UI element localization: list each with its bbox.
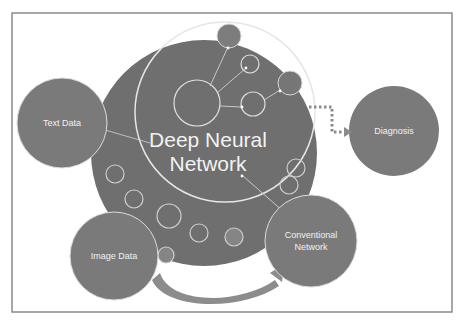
output-node-1	[217, 24, 241, 48]
output-node-2	[278, 71, 302, 95]
conventional-network-node	[265, 195, 357, 287]
text-data-label: Text Data	[43, 118, 81, 128]
diagnosis-label: Diagnosis	[374, 126, 414, 136]
dnn-label-line2: Network	[169, 152, 247, 175]
diagram-canvas: Deep Neural Network Text Data Diagnosis …	[0, 0, 461, 327]
dnn-label-line1: Deep Neural	[149, 128, 267, 151]
conventional-network-label-line2: Network	[294, 242, 328, 252]
image-data-label: Image Data	[91, 251, 138, 261]
conventional-network-label-line1: Conventional	[285, 230, 338, 240]
